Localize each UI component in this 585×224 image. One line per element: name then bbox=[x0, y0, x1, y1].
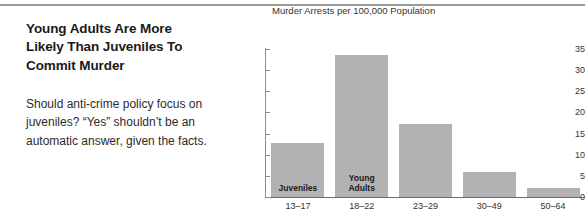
x-axis-tick-label: 30–49 bbox=[457, 201, 521, 211]
bar bbox=[527, 188, 580, 197]
y-axis-tick bbox=[266, 155, 270, 156]
bar bbox=[399, 124, 452, 197]
x-axis-tick-label: 50–64 bbox=[521, 201, 585, 211]
y-axis-tick-label: 20 bbox=[559, 107, 585, 117]
bar-chart: Murder Arrests per 100,000 Population 05… bbox=[236, 0, 585, 224]
plot-area: 05101520253035 JuvenilesYoungAdults 13–1… bbox=[236, 0, 585, 224]
y-axis-tick bbox=[266, 49, 270, 50]
y-axis-tick-label: 30 bbox=[559, 65, 585, 75]
bar: YoungAdults bbox=[335, 55, 388, 198]
y-axis-tick bbox=[266, 176, 270, 177]
y-axis-tick bbox=[266, 112, 270, 113]
x-axis-tick-label: 18–22 bbox=[330, 201, 394, 211]
x-axis-line bbox=[265, 197, 585, 198]
bar: Juveniles bbox=[271, 143, 324, 197]
y-axis-tick-label: 5 bbox=[559, 171, 585, 181]
bar-inline-label: YoungAdults bbox=[335, 173, 388, 193]
headline: Young Adults Are More Likely Than Juveni… bbox=[26, 20, 211, 75]
bar bbox=[463, 172, 516, 197]
x-axis-tick-label: 13–17 bbox=[266, 201, 330, 211]
y-axis-tick-label: 25 bbox=[559, 86, 585, 96]
y-axis-tick-label: 15 bbox=[559, 129, 585, 139]
x-axis-tick-label: 23–29 bbox=[394, 201, 458, 211]
y-axis-tick bbox=[266, 197, 270, 198]
y-axis-tick bbox=[266, 134, 270, 135]
editorial-column: Young Adults Are More Likely Than Juveni… bbox=[26, 20, 211, 150]
infographic-panel: Young Adults Are More Likely Than Juveni… bbox=[0, 0, 585, 224]
y-axis-tick bbox=[266, 70, 270, 71]
y-axis-tick bbox=[266, 91, 270, 92]
y-axis-tick-label: 10 bbox=[559, 150, 585, 160]
deck-paragraph: Should anti-crime policy focus on juveni… bbox=[26, 95, 211, 150]
bar-inline-label: Juveniles bbox=[271, 183, 324, 193]
y-axis-tick-label: 35 bbox=[559, 44, 585, 54]
